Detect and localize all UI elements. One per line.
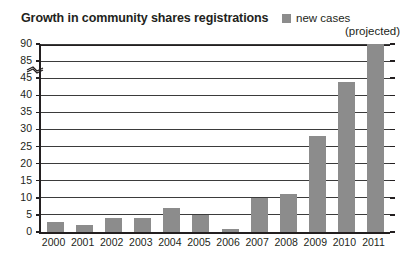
- bar: [251, 198, 268, 232]
- y-axis-tick-right: [390, 163, 395, 165]
- bar: [309, 136, 326, 232]
- y-axis-tick: [36, 180, 40, 182]
- x-axis-tick-label: 2008: [272, 236, 301, 248]
- plot-area: [39, 44, 390, 234]
- bar: [338, 82, 355, 232]
- y-axis-tick-right: [390, 146, 395, 148]
- bar-series: [41, 44, 390, 232]
- y-axis-tick: [36, 146, 40, 148]
- y-axis-tick-right: [390, 43, 395, 45]
- x-axis-tick-label: 2002: [97, 236, 126, 248]
- legend-projected-note: (projected): [282, 25, 402, 37]
- y-axis-tick-right: [390, 214, 395, 216]
- y-axis-tick: [36, 95, 40, 97]
- bar: [76, 225, 93, 232]
- y-axis-tick-right: [390, 77, 395, 79]
- chart-container: Growth in community shares registrations…: [0, 0, 404, 263]
- y-axis-tick-label: 40: [0, 88, 32, 100]
- y-axis-tick-right: [390, 180, 395, 182]
- y-axis-tick: [36, 197, 40, 199]
- y-axis-tick: [36, 129, 40, 131]
- x-axis-tick-label: 2011: [359, 236, 388, 248]
- x-axis-tick-label: 2004: [155, 236, 184, 248]
- y-axis-tick-label: 25: [0, 140, 32, 152]
- y-axis-tick: [36, 214, 40, 216]
- y-axis-tick: [36, 43, 40, 45]
- y-axis-tick-label: 15: [0, 174, 32, 186]
- legend-label: new cases: [296, 12, 350, 24]
- bar: [163, 208, 180, 232]
- y-axis-tick: [36, 112, 40, 114]
- y-axis-tick-label: 20: [0, 157, 32, 169]
- x-axis-labels: 2000200120022003200420052006200720082009…: [39, 236, 388, 256]
- bar: [105, 218, 122, 232]
- x-axis-tick-label: 2007: [243, 236, 272, 248]
- y-axis-tick: [36, 60, 40, 62]
- x-axis-tick-label: 2010: [330, 236, 359, 248]
- y-axis-tick-label: 5: [0, 208, 32, 220]
- x-axis-tick-label: 2006: [214, 236, 243, 248]
- y-axis-tick-right: [390, 60, 395, 62]
- y-axis-tick-right: [390, 197, 395, 199]
- y-axis-tick-right: [390, 129, 395, 131]
- y-axis-tick-label: 35: [0, 105, 32, 117]
- y-axis-tick-label: 0: [0, 225, 32, 237]
- x-axis-tick-label: 2005: [184, 236, 213, 248]
- x-axis-tick-label: 2001: [68, 236, 97, 248]
- y-axis-tick-label: 90: [0, 37, 32, 49]
- legend-item-new-cases: new cases: [282, 12, 402, 24]
- y-axis-tick-label: 10: [0, 191, 32, 203]
- bar: [222, 229, 239, 232]
- legend-swatch-icon: [282, 14, 291, 23]
- x-axis-tick-label: 2003: [126, 236, 155, 248]
- y-axis-tick-right: [390, 231, 395, 233]
- chart-legend: new cases (projected): [282, 12, 402, 37]
- chart-title: Growth in community shares registrations: [21, 11, 268, 25]
- y-axis-tick-right: [390, 112, 395, 114]
- bar: [367, 44, 384, 232]
- bar: [192, 215, 209, 232]
- y-axis-tick: [36, 231, 40, 233]
- y-axis-tick-label: 30: [0, 122, 32, 134]
- y-axis-tick-right: [390, 95, 395, 97]
- x-axis-tick-label: 2000: [39, 236, 68, 248]
- bar: [47, 222, 64, 232]
- y-axis-tick: [36, 77, 40, 79]
- bar: [280, 194, 297, 232]
- bar: [134, 218, 151, 232]
- y-axis-tick: [36, 163, 40, 165]
- x-axis-tick-label: 2009: [301, 236, 330, 248]
